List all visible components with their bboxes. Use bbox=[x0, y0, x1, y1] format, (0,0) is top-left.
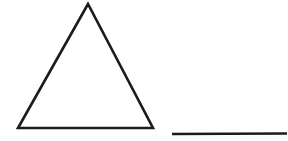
horizontal-line-segment bbox=[172, 134, 287, 135]
triangle-outline-shape bbox=[18, 4, 153, 128]
drawing-canvas bbox=[0, 0, 288, 141]
figure-svg bbox=[0, 0, 288, 141]
